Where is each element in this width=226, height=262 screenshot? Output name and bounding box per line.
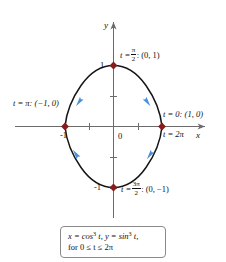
parametric-astroid-figure	[0, 0, 226, 262]
annotation-t-zero-prefix: t = 0:	[163, 109, 182, 119]
annotation-t-half-pi-prefix: t =	[120, 50, 130, 60]
annotation-t-half-pi-point: : (0, 1)	[137, 50, 160, 60]
annotation-t-three-half-pi-point: : (0, −1)	[141, 184, 169, 194]
annotation-t-pi: t = π: (−1, 0)	[13, 99, 59, 108]
annotation-t-half-pi-denominator: 2	[131, 55, 137, 62]
equation-x-exponent: 3	[93, 231, 96, 237]
y-tick-label-one: 1	[100, 60, 104, 70]
annotation-t-half-pi: t =π2: (0, 1)	[120, 47, 160, 63]
annotation-t-three-half-pi-denominator: 2	[132, 189, 141, 196]
annotation-t-three-half-pi: t =3π2: (0, −1)	[121, 181, 169, 197]
equation-line-1: x = cos3 t, y = sin3 t,	[68, 230, 159, 242]
annotation-t-zero-point: (1, 0)	[185, 109, 203, 119]
y-axis-label: y	[104, 20, 108, 30]
equation-caption-box: x = cos3 t, y = sin3 t, for 0 ≤ t ≤ 2π	[60, 226, 166, 258]
x-tick-label-neg-one: -1	[60, 130, 67, 140]
equation-mid-part: t, y = sin	[98, 231, 128, 241]
origin-label: 0	[118, 131, 122, 141]
equation-y-exponent: 3	[129, 231, 132, 237]
y-tick-label-neg-one: -1	[94, 182, 101, 192]
x-axis-label: x	[196, 130, 200, 140]
equation-x-part: x = cos	[68, 231, 93, 241]
equation-line-2: for 0 ≤ t ≤ 2π	[68, 242, 159, 253]
annotation-t-two-pi: t = 2π	[163, 130, 184, 139]
equation-end-part: t,	[134, 231, 139, 241]
annotation-t-zero: t = 0: (1, 0)	[163, 110, 203, 119]
annotation-t-three-half-pi-prefix: t =	[121, 184, 131, 194]
